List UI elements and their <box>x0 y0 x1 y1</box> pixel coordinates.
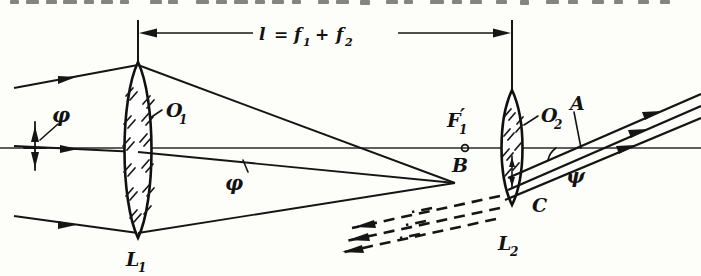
lens-L1-center-label-sub: 1 <box>179 113 187 127</box>
phi-marker-arrowhead-down <box>31 152 39 168</box>
point-A-leader <box>574 112 581 148</box>
dimension-label-lhs: l <box>259 24 266 44</box>
incoming-rays-group <box>14 65 138 233</box>
outgoing-ray-bottom-arrowhead <box>616 145 636 154</box>
lens-L2-name-label-sub: 2 <box>509 245 518 259</box>
virtual-rays-group <box>340 196 500 253</box>
psi-label: ψ <box>566 164 586 188</box>
incoming-ray-top <box>14 65 138 88</box>
diagram-canvas: l = f 1 + f 2 <box>0 0 701 276</box>
focal-point-prime-mark: ′ <box>460 104 465 126</box>
point-B-label: B <box>451 154 468 176</box>
outgoing-ray-top <box>508 94 701 178</box>
psi-angle-marker: ψ <box>548 148 586 188</box>
phi-label-left: φ <box>52 103 70 127</box>
virtual-ray-3-arrowhead <box>342 245 364 253</box>
intermediate-ray-middle <box>138 152 455 183</box>
point-A-group: A <box>568 92 585 148</box>
dimension-label: l = f 1 + f 2 <box>259 24 353 49</box>
phi-angle-marker-left: φ <box>24 103 70 170</box>
outgoing-ray-middle-arrowhead <box>628 129 648 138</box>
phi-marker-arrowhead-up <box>31 126 39 142</box>
outgoing-ray-bottom <box>505 118 701 200</box>
lens-L1-name-label-sub: 1 <box>138 261 146 275</box>
point-C-label: C <box>532 194 547 216</box>
dimension-label-term2-sub: 2 <box>344 36 353 49</box>
clipped-top-text-line <box>10 0 670 5</box>
lens-L1-leader-line <box>150 110 162 118</box>
optical-ray-diagram-figure: l = f 1 + f 2 <box>0 0 701 276</box>
outgoing-rays-group <box>505 94 701 200</box>
lens-L1-outline <box>125 62 152 238</box>
incoming-ray-top-arrowhead <box>58 76 76 84</box>
outgoing-ray-top-arrowhead <box>642 111 662 120</box>
phi-angle-marker-inner: φ <box>225 160 248 195</box>
lens-L2-leader-line <box>524 116 538 125</box>
dimension-arrowhead-right <box>493 29 511 38</box>
dimension-label-plus: + <box>315 24 329 44</box>
incoming-ray-bottom <box>14 216 138 233</box>
phi-label-inner: φ <box>225 171 243 195</box>
virtual-ray-2-arrowhead <box>348 233 370 241</box>
incoming-ray-middle-arrowhead <box>60 145 78 153</box>
lens-L1-group: O 1 L 1 <box>123 62 187 275</box>
dimension-arrowhead-left <box>139 29 157 38</box>
point-A-label: A <box>568 92 585 114</box>
dimension-label-equals: = <box>274 24 288 44</box>
virtual-ray-1-arrowhead <box>354 220 376 228</box>
focal-point-group: F 1 ′ B <box>446 104 468 176</box>
dimension-label-term1-sub: 1 <box>303 36 311 49</box>
lens-L2-center-label-sub: 2 <box>553 118 562 132</box>
intermediate-rays-group <box>138 65 455 233</box>
lens-L2-group: O 2 L 2 C <box>497 90 562 259</box>
